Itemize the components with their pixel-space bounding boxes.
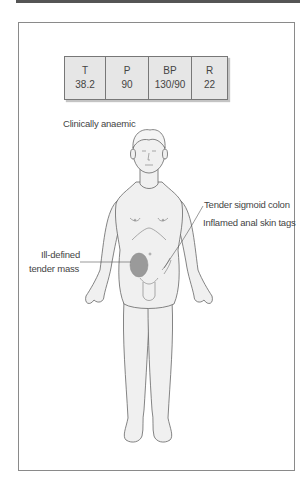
annotation-inflamed-anal-skin-tags: Inflamed anal skin tags	[203, 217, 296, 228]
annotation-clinically-anaemic: Clinically anaemic	[63, 118, 135, 129]
mass-marker	[130, 253, 148, 277]
annotation-mass-line2: tender mass	[29, 263, 79, 274]
annotation-tender-sigmoid-colon: Tender sigmoid colon	[204, 199, 290, 210]
annotation-mass-line1: Ill-defined	[41, 249, 79, 260]
body-outline-illustration	[0, 0, 308, 492]
